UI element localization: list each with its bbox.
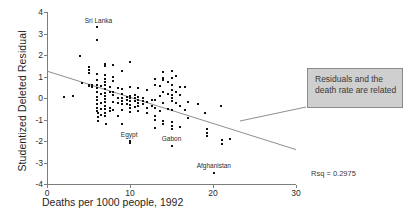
callout-text: Residuals and the death rate are related [315, 74, 399, 96]
rsq-label: Rsq = 0.2975 [311, 169, 356, 178]
chart-canvas: Studentized Deleted Residual Deaths per … [0, 0, 416, 215]
callout-box: Residuals and the death rate are related [307, 68, 403, 108]
